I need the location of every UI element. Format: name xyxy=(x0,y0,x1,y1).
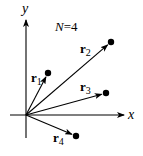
x-axis-label: x xyxy=(127,107,135,122)
n-value: =4 xyxy=(64,19,78,34)
vector-r4-arrow xyxy=(26,115,72,134)
vector-r4-label: r4 xyxy=(53,130,64,147)
position-vectors-diagram: x y N=4 r1r2r3r4 xyxy=(0,0,143,156)
vector-subscript: 3 xyxy=(86,85,91,96)
particle-count-label: N=4 xyxy=(54,19,78,34)
vectors-group: r1r2r3r4 xyxy=(26,39,114,147)
vector-r1-label: r1 xyxy=(31,70,42,87)
vector-subscript: 2 xyxy=(86,47,91,58)
particle-r3-dot xyxy=(103,90,109,96)
vector-r2-label: r2 xyxy=(80,41,91,58)
y-axis-label: y xyxy=(20,1,29,16)
particle-r1-dot xyxy=(45,70,51,76)
particle-r4-dot xyxy=(73,133,79,139)
vector-subscript: 1 xyxy=(37,76,42,87)
vector-subscript: 4 xyxy=(59,136,64,147)
particle-r2-dot xyxy=(108,39,114,45)
vector-r3-label: r3 xyxy=(80,79,91,96)
